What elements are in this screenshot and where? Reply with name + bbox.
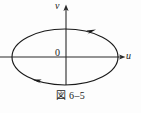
v-axis-label: v	[55, 1, 59, 11]
origin-label: 0	[55, 48, 60, 58]
u-axis-label: u	[126, 51, 131, 61]
figure-container: v u 0 図 6–5	[0, 0, 141, 113]
figure-caption: 図 6–5	[0, 90, 141, 102]
